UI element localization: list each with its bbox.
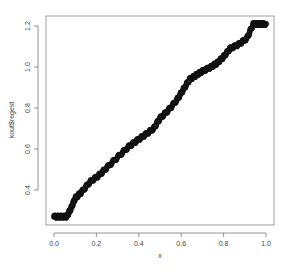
x-tick-label: 0.0	[49, 240, 59, 247]
x-tick-label: 0.8	[219, 240, 229, 247]
y-tick-label: 1.0	[24, 62, 31, 72]
y-tick-label: 1.2	[24, 21, 31, 31]
chart: 0.00.20.40.60.81.0 0.40.60.81.01.2 x kou…	[0, 0, 288, 272]
y-axis: 0.40.60.81.01.2	[24, 21, 38, 195]
y-tick-label: 0.6	[24, 144, 31, 154]
y-tick-label: 0.8	[24, 103, 31, 113]
x-tick-label: 0.2	[92, 240, 102, 247]
x-tick-label: 1.0	[261, 240, 271, 247]
x-tick-label: 0.4	[134, 240, 144, 247]
y-tick-label: 0.4	[24, 185, 31, 195]
y-axis-label: kout$regest	[8, 102, 16, 139]
data-series	[52, 20, 269, 220]
x-axis: 0.00.20.40.60.81.0	[49, 233, 271, 247]
x-tick-label: 0.6	[176, 240, 186, 247]
x-axis-label: x	[158, 252, 162, 259]
